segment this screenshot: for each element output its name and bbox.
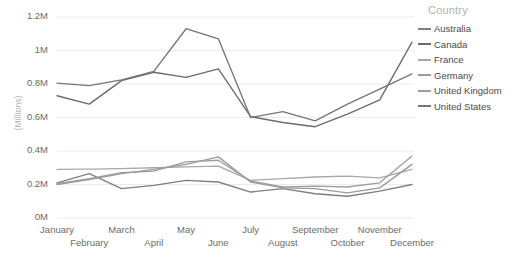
legend-item-france[interactable]: France <box>418 52 523 68</box>
legend-item-canada[interactable]: Canada <box>418 37 523 53</box>
legend-item-united-kingdom[interactable]: United Kingdom <box>418 83 523 99</box>
legend-item-label: France <box>434 55 464 65</box>
line-chart: (Millions) 0M0.2M0.4M0.6M0.8M1M1.2M Janu… <box>0 0 523 263</box>
legend-item-label: United States <box>434 102 491 112</box>
legend-swatch-icon <box>418 74 431 76</box>
series-line-united-kingdom[interactable] <box>57 156 412 187</box>
legend-item-germany[interactable]: Germany <box>418 68 523 84</box>
x-axis-tick-label: March <box>91 224 153 235</box>
x-axis-tick-label: August <box>252 237 314 248</box>
legend-swatch-icon <box>418 28 431 30</box>
legend-item-united-states[interactable]: United States <box>418 99 523 115</box>
legend-title: Country <box>428 4 523 16</box>
legend-item-label: Canada <box>434 40 467 50</box>
legend-swatch-icon <box>418 105 431 107</box>
legend-item-list: AustraliaCanadaFranceGermanyUnited Kingd… <box>418 21 523 114</box>
x-axis-tick-label: May <box>155 224 217 235</box>
x-axis-tick-label: April <box>123 237 185 248</box>
legend-swatch-icon <box>418 90 431 92</box>
x-axis-tick-label: June <box>187 237 249 248</box>
series-line-france[interactable] <box>57 166 412 180</box>
x-axis-tick-label: December <box>381 237 443 248</box>
legend-item-australia[interactable]: Australia <box>418 21 523 37</box>
x-axis-tick-label: February <box>58 237 120 248</box>
series-line-united-states[interactable] <box>57 29 412 121</box>
x-axis-tick-label: July <box>220 224 282 235</box>
x-axis-tick-label: January <box>26 224 88 235</box>
chart-legend: Country AustraliaCanadaFranceGermanyUnit… <box>418 4 523 114</box>
legend-item-label: Australia <box>434 24 471 34</box>
x-axis-tick-label: September <box>284 224 346 235</box>
series-lines <box>57 29 412 197</box>
legend-item-label: Germany <box>434 71 473 81</box>
legend-swatch-icon <box>418 43 431 45</box>
x-axis-tick-label: November <box>349 224 411 235</box>
x-axis-tick-label: October <box>316 237 378 248</box>
legend-item-label: United Kingdom <box>434 86 502 96</box>
legend-swatch-icon <box>418 59 431 61</box>
